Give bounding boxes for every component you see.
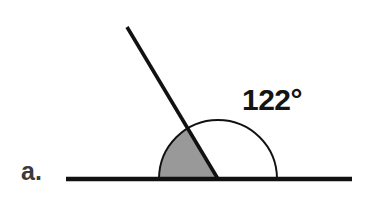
part-letter-label: a. <box>21 157 42 185</box>
angle-figure: 122° a. <box>0 0 370 202</box>
angle-measure-label: 122° <box>242 83 302 116</box>
angle-diagram-svg: 122° a. <box>0 0 370 202</box>
